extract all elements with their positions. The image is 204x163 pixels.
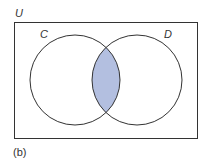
set-c-label: C: [40, 28, 48, 40]
venn-diagram: U C D (b): [0, 0, 204, 163]
universe-label: U: [15, 7, 23, 19]
set-d-label: D: [164, 28, 172, 40]
caption: (b): [13, 146, 26, 158]
